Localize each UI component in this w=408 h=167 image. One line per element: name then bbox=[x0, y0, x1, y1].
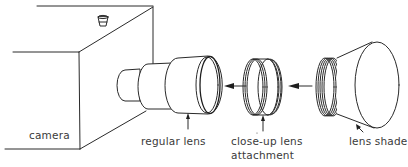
camera-label: camera bbox=[29, 129, 70, 142]
close-up-lens-label: close-up lens bbox=[231, 135, 303, 148]
close-up-lens-drawing bbox=[243, 59, 282, 115]
arrow-shade-to-closeup bbox=[288, 83, 312, 89]
pointer-regular-lens bbox=[186, 113, 190, 129]
shutter-knob-icon bbox=[98, 15, 108, 26]
pointer-lens-shade bbox=[356, 124, 363, 132]
close-up-lens-label-line2: attachment bbox=[231, 149, 294, 162]
regular-lens-label: regular lens bbox=[141, 135, 206, 148]
lens-shade-drawing bbox=[316, 42, 399, 128]
pointer-close-up-lens bbox=[256, 115, 265, 134]
lens-shade-label: lens shade bbox=[349, 135, 408, 148]
regular-lens-drawing bbox=[117, 56, 222, 114]
